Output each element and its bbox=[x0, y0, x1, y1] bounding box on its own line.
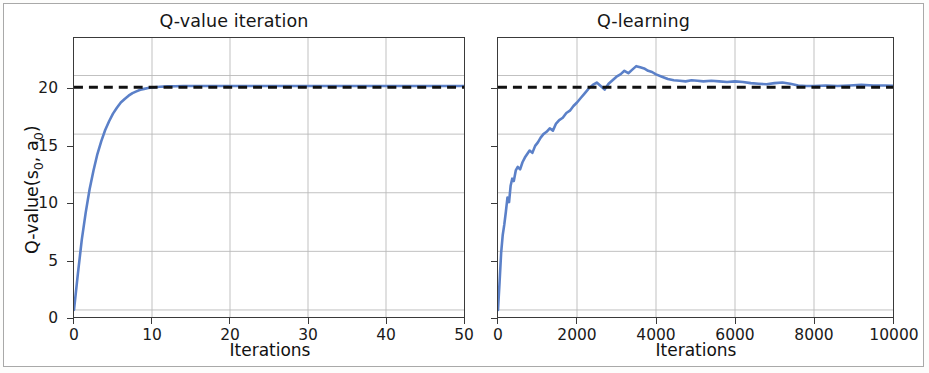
xtick-mark-4000 bbox=[656, 318, 657, 324]
xtick-mark-40 bbox=[386, 318, 387, 324]
xtick-mark-50 bbox=[464, 318, 465, 324]
ytick-mark-5 bbox=[67, 261, 73, 262]
ytick-mark-10 bbox=[67, 203, 73, 204]
yaxis-title-left: Q-value(s0, a0) bbox=[22, 70, 46, 310]
ytick-mark-right-5 bbox=[491, 261, 497, 262]
figure-page: Q-value iteration 20 15 10 5 0 0 10 20 3… bbox=[0, 0, 929, 373]
xtick-mark-10 bbox=[151, 318, 152, 324]
ytick-mark-right-20 bbox=[491, 88, 497, 89]
plot-canvas-left bbox=[74, 38, 464, 317]
panel-q-value-iteration: Q-value iteration 20 15 10 5 0 0 10 20 3… bbox=[0, 0, 478, 373]
ytick-label-0: 0 bbox=[24, 309, 58, 327]
plot-canvas-right bbox=[498, 38, 893, 317]
xtick-mark-2000 bbox=[576, 318, 577, 324]
xtick-mark-0 bbox=[497, 318, 498, 324]
panel-title-right: Q-learning bbox=[418, 11, 869, 31]
plot-area-left bbox=[73, 37, 465, 318]
xtick-mark-6000 bbox=[735, 318, 736, 324]
ytick-mark-right-15 bbox=[491, 146, 497, 147]
panel-q-learning: Q-learning 0 2000 4000 6000 8000 10000 I… bbox=[478, 0, 929, 373]
xaxis-title-right: Iterations bbox=[478, 340, 914, 360]
ytick-mark-20 bbox=[67, 88, 73, 89]
xtick-mark-0 bbox=[73, 318, 74, 324]
ytick-mark-15 bbox=[67, 146, 73, 147]
plot-area-right bbox=[497, 37, 894, 318]
xtick-mark-20 bbox=[229, 318, 230, 324]
xaxis-title-left: Iterations bbox=[0, 340, 540, 360]
xtick-mark-8000 bbox=[814, 318, 815, 324]
xtick-mark-10000 bbox=[893, 318, 894, 324]
panel-title-left: Q-value iteration bbox=[0, 11, 473, 31]
xtick-mark-30 bbox=[308, 318, 309, 324]
ytick-mark-right-10 bbox=[491, 203, 497, 204]
